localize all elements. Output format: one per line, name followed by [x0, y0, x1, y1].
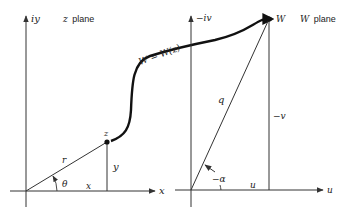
alpha-arrow-icon	[205, 165, 215, 172]
z-plane: iy z plane x z r θ x y	[10, 13, 165, 207]
alpha-label: −α	[212, 174, 226, 184]
point-z-label: z	[103, 129, 109, 138]
radius-label: r	[62, 155, 67, 165]
v-component-label: −v	[273, 111, 286, 121]
z-plane-title: z plane	[62, 14, 94, 24]
theta-label: θ	[62, 179, 68, 189]
q-magnitude-line	[191, 19, 269, 190]
x-axis-label: x	[159, 185, 165, 196]
u-component-label: u	[250, 180, 256, 190]
w-plane-title: W plane	[300, 14, 336, 24]
point-z	[104, 139, 109, 144]
y-component-label: y	[112, 161, 119, 172]
point-w	[266, 16, 271, 21]
v-axis-label: −iv	[196, 13, 212, 23]
conformal-mapping-diagram: iy z plane x z r θ x y W = W(z) −iv W W	[0, 0, 354, 217]
iy-axis-label: iy	[31, 13, 40, 24]
point-w-label: W	[276, 14, 286, 24]
mapping-label: W = W(z)	[137, 42, 182, 66]
alpha-arc-icon	[220, 185, 221, 190]
theta-arc-icon	[53, 176, 57, 191]
q-label: q	[218, 94, 224, 105]
x-component-label: x	[86, 181, 91, 191]
u-axis-label: u	[327, 185, 333, 195]
